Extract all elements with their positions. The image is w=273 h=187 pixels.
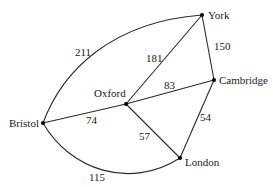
weight-oxford-cambridge: 83 xyxy=(164,79,176,91)
weight-bristol-london: 115 xyxy=(89,171,106,183)
node-cambridge-dot xyxy=(212,78,216,82)
weight-york-cambridge: 150 xyxy=(214,40,231,52)
edge-bristol-oxford xyxy=(43,104,126,123)
weight-cambridge-london: 54 xyxy=(200,111,212,123)
weight-bristol-oxford: 74 xyxy=(86,114,98,126)
node-oxford-dot xyxy=(124,102,128,106)
node-oxford-label: Oxford xyxy=(94,87,126,99)
weight-oxford-york: 181 xyxy=(146,52,163,64)
weighted-graph-diagram: York Cambridge Oxford Bristol London 211… xyxy=(0,0,273,187)
node-london-label: London xyxy=(185,156,220,168)
edge-bristol-york xyxy=(43,15,202,123)
node-cambridge-label: Cambridge xyxy=(219,74,268,86)
weight-oxford-london: 57 xyxy=(139,130,151,142)
edge-bristol-london xyxy=(43,123,180,174)
weight-bristol-york: 211 xyxy=(75,46,91,58)
node-york-dot xyxy=(200,13,204,17)
node-bristol-label: Bristol xyxy=(9,117,39,129)
node-york-label: York xyxy=(208,9,230,21)
node-london-dot xyxy=(178,156,182,160)
edge-york-cambridge xyxy=(202,15,214,80)
node-bristol-dot xyxy=(41,121,45,125)
edge-oxford-london xyxy=(126,104,180,158)
